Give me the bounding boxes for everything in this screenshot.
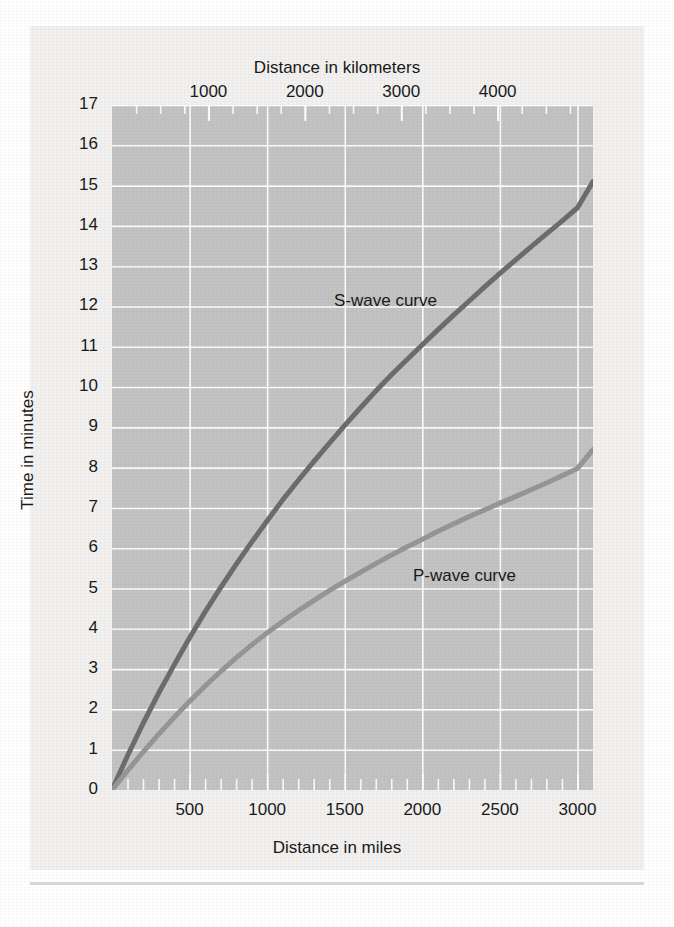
y-tick-1: 1	[62, 739, 98, 759]
curves-layer	[112, 105, 593, 790]
y-tick-8: 8	[62, 457, 98, 477]
x-tick-miles-2500: 2500	[470, 800, 530, 820]
s-wave-curve-label: S-wave curve	[334, 291, 437, 311]
figure-container: S-wave curve P-wave curve Distance in ki…	[0, 0, 674, 927]
x-tick-miles-1500: 1500	[315, 800, 375, 820]
y-tick-4: 4	[62, 618, 98, 638]
x-tick-km-3000: 3000	[371, 82, 431, 102]
y-tick-7: 7	[62, 497, 98, 517]
plot-area	[112, 105, 593, 790]
x-tick-km-4000: 4000	[468, 82, 528, 102]
y-tick-5: 5	[62, 578, 98, 598]
x-tick-miles-2000: 2000	[392, 800, 452, 820]
y-tick-0: 0	[62, 779, 98, 799]
y-tick-6: 6	[62, 537, 98, 557]
p-wave-curve-label: P-wave curve	[413, 566, 516, 586]
x-tick-miles-3000: 3000	[547, 800, 607, 820]
y-tick-3: 3	[62, 658, 98, 678]
top-axis-title: Distance in kilometers	[0, 58, 674, 78]
y-tick-13: 13	[62, 255, 98, 275]
y-tick-16: 16	[62, 134, 98, 154]
y-tick-11: 11	[62, 336, 98, 356]
y-tick-17: 17	[62, 94, 98, 114]
x-tick-km-2000: 2000	[275, 82, 335, 102]
x-tick-km-1000: 1000	[178, 82, 238, 102]
bottom-axis-title: Distance in miles	[0, 838, 674, 858]
left-axis-title: Time in minutes	[18, 360, 38, 540]
x-tick-miles-1000: 1000	[237, 800, 297, 820]
y-tick-15: 15	[62, 175, 98, 195]
x-tick-miles-500: 500	[160, 800, 220, 820]
y-tick-2: 2	[62, 698, 98, 718]
y-tick-14: 14	[62, 215, 98, 235]
y-tick-9: 9	[62, 416, 98, 436]
y-tick-10: 10	[62, 376, 98, 396]
y-tick-12: 12	[62, 295, 98, 315]
figure-bottom-rule	[30, 882, 644, 885]
